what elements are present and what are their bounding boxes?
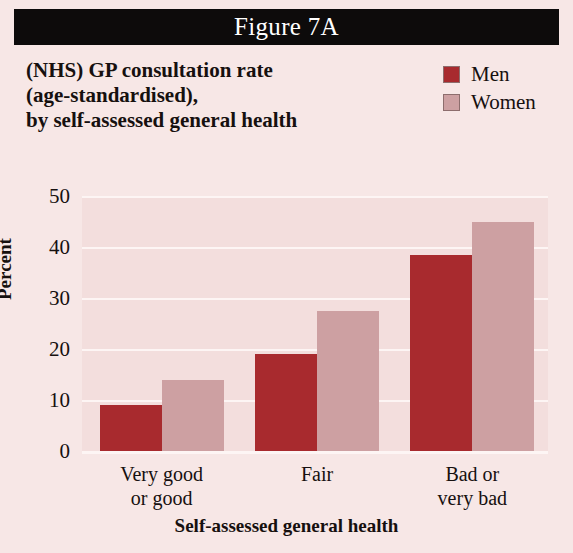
- legend-label-women: Women: [471, 92, 536, 113]
- y-tick-label-20: 20: [0, 337, 70, 362]
- x-category-label-line-1: Bad or: [392, 462, 552, 486]
- bar-group-1: [100, 196, 224, 453]
- bar-group-3: [410, 196, 534, 453]
- legend-swatch-men: [443, 66, 460, 83]
- legend-item-men: Men: [443, 62, 536, 87]
- x-category-label-3: Bad orvery bad: [392, 462, 552, 510]
- bar-men-2: [255, 354, 317, 451]
- x-axis-title: Self-assessed general health: [0, 515, 573, 537]
- y-tick-label-50: 50: [0, 184, 70, 209]
- legend-label-men: Men: [471, 64, 510, 85]
- figure-7a: Figure 7A (NHS) GP consultation rate (ag…: [0, 0, 573, 553]
- legend-item-women: Women: [443, 90, 536, 115]
- x-category-label-line-1: Fair: [237, 462, 397, 486]
- chart-title: (NHS) GP consultation rate (age-standard…: [26, 58, 406, 133]
- x-category-label-2: Fair: [237, 462, 397, 486]
- x-category-label-line-2: very bad: [392, 486, 552, 510]
- bar-women-2: [317, 311, 379, 451]
- bar-men-1: [100, 405, 162, 451]
- chart-title-line-1: (NHS) GP consultation rate: [26, 58, 406, 83]
- bar-men-3: [410, 255, 472, 451]
- x-category-label-line-1: Very good: [82, 462, 242, 486]
- axis-baseline: [82, 451, 548, 454]
- y-tick-label-10: 10: [0, 388, 70, 413]
- chart-title-line-3: by self-assessed general health: [26, 108, 406, 133]
- figure-banner: Figure 7A: [14, 9, 559, 45]
- chart-title-line-2: (age-standardised),: [26, 83, 406, 108]
- chart-legend: Men Women: [443, 62, 536, 118]
- plot-area: [82, 196, 548, 453]
- x-category-label-1: Very goodor good: [82, 462, 242, 510]
- bar-group-2: [255, 196, 379, 453]
- y-tick-label-0: 0: [0, 439, 70, 464]
- bar-women-3: [472, 222, 534, 452]
- figure-label: Figure 7A: [14, 9, 559, 45]
- legend-swatch-women: [443, 94, 460, 111]
- x-category-label-line-2: or good: [82, 486, 242, 510]
- y-axis-title: Percent: [0, 238, 16, 300]
- y-axis: 01020304050: [0, 196, 78, 458]
- bar-women-1: [162, 380, 224, 451]
